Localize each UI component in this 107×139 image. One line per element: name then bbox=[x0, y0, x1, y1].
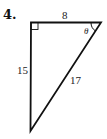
side-label-left: 15 bbox=[17, 64, 29, 76]
right-triangle-figure: 8 15 17 θ bbox=[0, 0, 107, 139]
angle-label-theta: θ bbox=[84, 26, 89, 36]
triangle-outline bbox=[31, 23, 102, 132]
side-label-hypotenuse: 17 bbox=[70, 74, 82, 86]
angle-arc bbox=[91, 23, 96, 32]
side-label-top: 8 bbox=[62, 9, 68, 21]
right-angle-marker bbox=[31, 23, 38, 30]
